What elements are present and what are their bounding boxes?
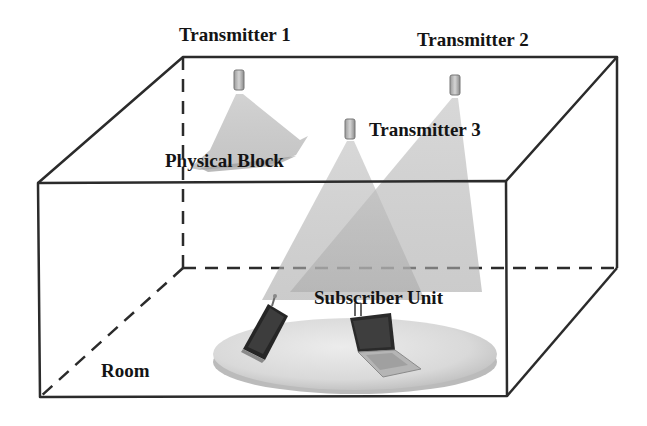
- floor-right-diagonal-edge: [507, 268, 617, 396]
- ceiling-edges: [38, 57, 617, 183]
- transmitter-1-device: [234, 70, 244, 90]
- transmitter-2-device: [450, 75, 460, 95]
- room-diagram: [0, 0, 647, 426]
- physical-block-label: Physical Block: [165, 151, 284, 170]
- transmitter-1-label: Transmitter 1: [179, 25, 291, 44]
- subscriber-unit-label: Subscriber Unit: [314, 288, 443, 307]
- transmitter-3-label: Transmitter 3: [369, 120, 481, 139]
- room-label: Room: [101, 361, 150, 380]
- transmitter-3-device: [345, 119, 355, 139]
- transmitter-2-label: Transmitter 2: [417, 30, 529, 49]
- diagram-canvas: Transmitter 1 Transmitter 2 Transmitter …: [0, 0, 647, 426]
